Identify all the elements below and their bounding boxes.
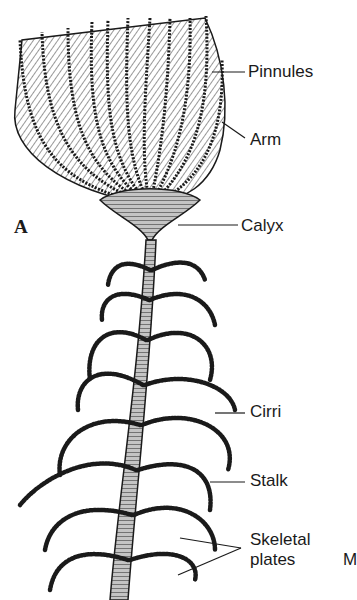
- panel-label: A: [14, 216, 28, 238]
- label-stalk: Stalk: [250, 471, 288, 490]
- label-pinnules: Pinnules: [248, 62, 313, 81]
- label-cropped-next-panel: M: [343, 550, 357, 569]
- label-arm: Arm: [250, 130, 281, 149]
- crown: [15, 16, 225, 205]
- label-skeletal-plates-line2: plates: [250, 550, 295, 569]
- label-cirri: Cirri: [250, 402, 281, 421]
- label-skeletal-plates-line1: Skeletal: [250, 530, 310, 549]
- label-calyx: Calyx: [241, 216, 284, 235]
- calyx: [100, 189, 200, 240]
